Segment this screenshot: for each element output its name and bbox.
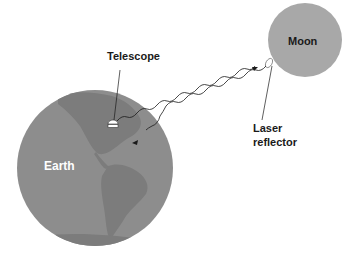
earth-label: Earth xyxy=(44,160,75,173)
telescope-icon xyxy=(108,120,118,128)
reflector-label-line1: Laser xyxy=(253,122,282,135)
outgoing-laser-beam xyxy=(117,66,255,121)
moon-label: Moon xyxy=(288,35,317,48)
return-laser-beam xyxy=(146,66,266,130)
reflector-label-line2: reflector xyxy=(253,136,297,149)
reflector-leader-line xyxy=(262,66,272,120)
telescope-label: Telescope xyxy=(107,50,160,63)
earth xyxy=(17,90,173,262)
